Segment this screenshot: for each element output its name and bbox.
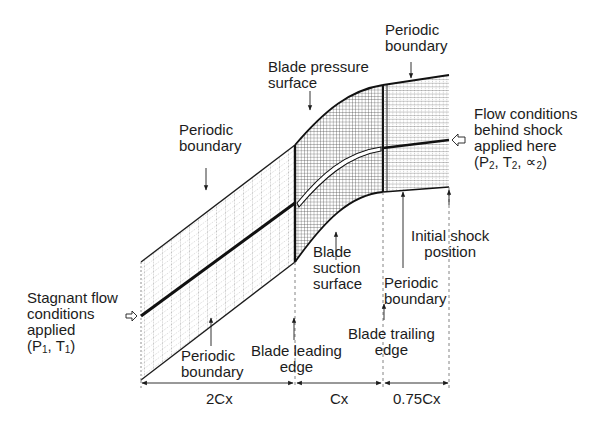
label-line: position: [411, 244, 489, 260]
label-line: Initial shock: [411, 228, 489, 244]
label-stagnant-flow-conditions: Stagnant flow conditions applied (P1, T1…: [27, 290, 118, 358]
label-blade-trailing-edge: Blade trailing edge: [348, 326, 435, 358]
label-line: suction: [313, 260, 362, 276]
label-blade-pressure-surface: Blade pressure surface: [268, 59, 369, 91]
label-initial-shock-position: Initial shock position: [411, 228, 489, 260]
label-line: surface: [313, 276, 362, 292]
blade-passage-mesh-region: [295, 84, 387, 262]
label-line: Blade pressure: [268, 59, 369, 75]
dimension-label-2cx: 2Cx: [206, 391, 233, 407]
label-blade-leading-edge: Blade leading edge: [251, 343, 342, 375]
label-line: Blade: [313, 244, 362, 260]
label-line: boundary: [179, 138, 242, 154]
label-periodic-boundary-upper-left: Periodic boundary: [179, 122, 242, 154]
label-blade-suction-surface: Blade suction surface: [313, 244, 362, 292]
label-line: boundary: [181, 364, 244, 380]
outlet-arrow-icon: [452, 134, 465, 146]
label-line: Periodic: [179, 122, 242, 138]
label-periodic-boundary-lower-left: Periodic boundary: [181, 348, 244, 380]
label-line: Blade leading: [251, 343, 342, 359]
label-periodic-boundary-lower-right: Periodic boundary: [384, 275, 447, 307]
label-line: conditions: [27, 306, 118, 322]
inlet-arrow-icon: [126, 311, 137, 321]
label-flow-conditions-behind-shock: Flow conditions behind shock applied her…: [474, 106, 577, 174]
label-line: Periodic: [181, 348, 244, 364]
label-line: Periodic: [385, 22, 448, 38]
dimension-label-cx: Cx: [330, 391, 348, 407]
label-line: Flow conditions: [474, 106, 577, 122]
dimension-label-075cx: 0.75Cx: [393, 391, 441, 407]
stagnant-params: (P1, T1): [27, 338, 118, 358]
label-line: Periodic: [384, 275, 447, 291]
label-line: applied here: [474, 138, 577, 154]
label-line: boundary: [385, 38, 448, 54]
flow-conditions-params: (P2, T2, ∝2): [474, 154, 577, 174]
label-line: boundary: [384, 291, 447, 307]
label-line: Stagnant flow: [27, 290, 118, 306]
outlet-mesh-region: [383, 75, 449, 192]
label-line: edge: [251, 359, 342, 375]
label-line: behind shock: [474, 122, 577, 138]
label-periodic-boundary-upper-right: Periodic boundary: [385, 22, 448, 54]
label-line: applied: [27, 322, 118, 338]
label-line: edge: [348, 342, 435, 358]
label-line: surface: [268, 75, 369, 91]
label-line: Blade trailing: [348, 326, 435, 342]
